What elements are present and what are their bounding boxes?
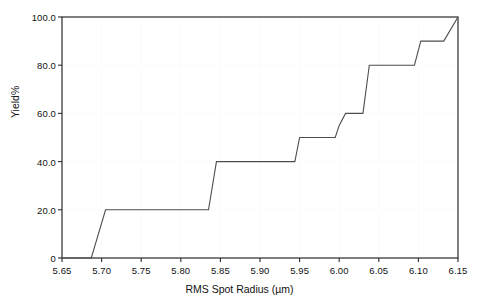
tick-marks [58,17,458,262]
x-tick-label: 5.85 [211,265,230,276]
x-axis-title: RMS Spot Radius (µm) [0,283,479,295]
y-tick-label: 60.0 [37,108,56,119]
plot-canvas [0,0,479,304]
x-tick-label: 6.10 [409,265,428,276]
x-tick-label: 5.70 [92,265,111,276]
y-tick-label: 40.0 [37,156,56,167]
y-tick-label: 80.0 [37,60,56,71]
gridlines [62,17,458,258]
x-tick-label: 5.75 [132,265,151,276]
y-axis-title: Yield% [9,86,21,118]
y-tick-label: 0 [51,253,56,264]
x-tick-label: 5.65 [53,265,72,276]
x-tick-label: 6.00 [330,265,349,276]
x-tick-label: 5.90 [251,265,270,276]
x-tick-label: 5.80 [171,265,190,276]
chart-figure: 5.655.705.755.805.855.905.956.006.056.10… [0,0,479,304]
x-tick-label: 5.95 [290,265,309,276]
y-tick-label: 20.0 [37,204,56,215]
x-tick-label: 6.15 [449,265,468,276]
y-tick-label: 100.0 [32,12,56,23]
x-tick-label: 6.05 [369,265,388,276]
